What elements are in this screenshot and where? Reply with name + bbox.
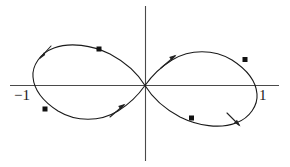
marker-point-upper-right xyxy=(243,57,248,62)
marker-point-lower-left xyxy=(43,107,48,112)
lemniscate-figure: −1 1 xyxy=(0,0,290,167)
figure-canvas xyxy=(0,0,290,167)
arrow-lower-left-inner xyxy=(110,104,126,117)
arrow-upper-right-inner xyxy=(161,55,177,68)
marker-point-upper-left xyxy=(97,47,102,52)
arrow-upper-left xyxy=(39,46,51,60)
x-axis-label-positive-one: 1 xyxy=(259,88,267,103)
x-axis-label-negative-one: −1 xyxy=(14,88,30,103)
marker-point-lower-right xyxy=(189,116,194,121)
